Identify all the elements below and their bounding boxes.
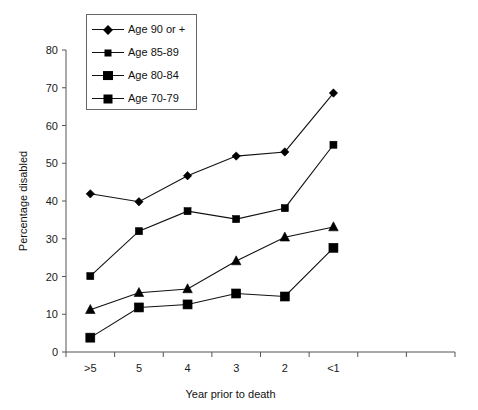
y-tick-label: 80 bbox=[46, 44, 58, 56]
legend-item: Age 80-84 bbox=[87, 64, 196, 87]
legend-marker-square-large-icon bbox=[92, 92, 124, 106]
chart-figure: 01020304050607080>55432<1Year prior to d… bbox=[0, 0, 478, 410]
legend-item: Age 70-79 bbox=[87, 87, 196, 110]
y-tick-label: 70 bbox=[46, 82, 58, 94]
legend-item-label: Age 80-84 bbox=[128, 70, 179, 81]
data-point-square-small bbox=[233, 216, 240, 223]
series-2 bbox=[87, 141, 337, 279]
x-tick-label: 4 bbox=[185, 362, 191, 374]
data-point-square-large bbox=[329, 243, 338, 252]
legend-item: Age 85-89 bbox=[87, 41, 196, 64]
y-tick-label: 0 bbox=[52, 346, 58, 358]
data-point-triangle bbox=[231, 256, 241, 265]
y-tick-label: 20 bbox=[46, 271, 58, 283]
y-tick-label: 30 bbox=[46, 233, 58, 245]
legend-item: Age 90 or + bbox=[87, 18, 196, 41]
legend-marker-diamond-icon bbox=[92, 23, 124, 37]
data-point-square-small bbox=[330, 141, 337, 148]
y-tick-label: 60 bbox=[46, 120, 58, 132]
data-point-square-small bbox=[281, 205, 288, 212]
data-point-diamond bbox=[135, 198, 143, 206]
legend-item-label: Age 90 or + bbox=[128, 24, 185, 35]
data-point-diamond bbox=[183, 172, 191, 180]
data-point-square-large bbox=[134, 303, 143, 312]
y-tick-label: 10 bbox=[46, 308, 58, 320]
legend-item-label: Age 85-89 bbox=[128, 47, 179, 58]
chart-legend: Age 90 or + Age 85-89 Age 80-84 Age 70-7… bbox=[86, 14, 197, 110]
data-point-square-small bbox=[184, 208, 191, 215]
chart-plot-area: 01020304050607080>55432<1Year prior to d… bbox=[0, 0, 478, 410]
legend-item-label: Age 70-79 bbox=[128, 93, 179, 104]
data-point-triangle bbox=[183, 284, 193, 293]
x-tick-label: 3 bbox=[233, 362, 239, 374]
x-tick-label: 2 bbox=[282, 362, 288, 374]
series-4 bbox=[86, 243, 338, 342]
x-tick-label: >5 bbox=[84, 362, 97, 374]
data-point-square-small bbox=[135, 228, 142, 235]
y-axis-title: Percentage disabled bbox=[17, 151, 29, 251]
series-3 bbox=[86, 222, 339, 314]
data-point-square-large bbox=[280, 292, 289, 301]
data-point-square-large bbox=[183, 300, 192, 309]
data-point-square-small bbox=[87, 273, 94, 280]
y-tick-label: 40 bbox=[46, 195, 58, 207]
legend-marker-triangle-icon bbox=[92, 69, 124, 83]
data-point-triangle bbox=[329, 222, 339, 231]
x-axis-title: Year prior to death bbox=[185, 388, 275, 400]
x-tick-label: <1 bbox=[327, 362, 340, 374]
data-point-diamond bbox=[232, 152, 240, 160]
series-line bbox=[90, 227, 333, 310]
series-line bbox=[90, 145, 333, 276]
data-point-square-large bbox=[232, 289, 241, 298]
series-line bbox=[90, 248, 333, 338]
legend-marker-square-small-icon bbox=[92, 46, 124, 60]
x-tick-label: 5 bbox=[136, 362, 142, 374]
data-point-square-large bbox=[86, 333, 95, 342]
data-point-diamond bbox=[86, 190, 94, 198]
y-tick-label: 50 bbox=[46, 157, 58, 169]
